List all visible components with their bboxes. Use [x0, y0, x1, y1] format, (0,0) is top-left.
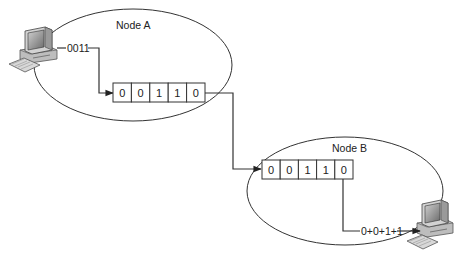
- node-a: Node A: [34, 9, 232, 121]
- node-b: Node B: [247, 137, 443, 245]
- register-bit: 1: [174, 87, 180, 99]
- node-a-register: 00110: [113, 83, 205, 102]
- connector-segment: [343, 179, 360, 231]
- transmission-arrow: [205, 93, 261, 169]
- register-bit: 0: [119, 87, 125, 99]
- node-b-register: 00110: [262, 160, 353, 179]
- register-bit: 0: [341, 164, 347, 176]
- register-bit: 1: [323, 164, 329, 176]
- register-bit: 1: [304, 164, 310, 176]
- register-bit: 0: [193, 87, 199, 99]
- register-bit: 0: [138, 87, 144, 99]
- register-bit: 0: [268, 164, 274, 176]
- computer-b-icon: [407, 200, 453, 249]
- register-bit: 1: [156, 87, 162, 99]
- output-connector: 0+0+1+1: [343, 179, 420, 237]
- input-connector: 0011: [57, 42, 113, 93]
- computer-a-icon: [9, 27, 57, 72]
- register-bit: 0: [286, 164, 292, 176]
- network-diagram: Node A Node B 0011 00110: [0, 0, 464, 257]
- node-a-label: Node A: [116, 19, 150, 31]
- output-sum-label: 0+0+1+1: [361, 225, 403, 237]
- input-bits-label: 0011: [67, 42, 90, 54]
- connector-arrow: [88, 48, 113, 93]
- node-b-label: Node B: [332, 142, 367, 154]
